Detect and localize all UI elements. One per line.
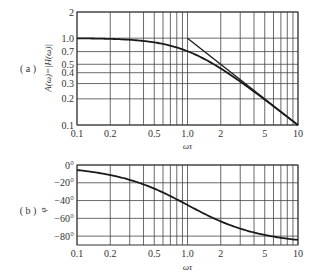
y-axis-label: A(ω)=|H(ω)| [43, 44, 53, 93]
x-tick-label: 1.0 [181, 248, 194, 259]
x-axis-label: ωτ [183, 141, 193, 151]
x-axis-label: ωτ [183, 262, 193, 272]
panel-label-b: ( b ) [20, 205, 37, 217]
x-tick-label: 0.1 [71, 248, 84, 259]
y-tick-label: −20° [54, 177, 74, 188]
phase-plot: 0°−20°−40°−60°−80°0.10.20.51.02510ωτφ( b… [20, 160, 303, 273]
x-tick-label: 1.0 [181, 128, 194, 139]
x-tick-label: 10 [293, 248, 303, 259]
x-tick-label: 5 [262, 128, 267, 139]
x-tick-label: 2 [218, 248, 223, 259]
x-tick-label: 2 [218, 128, 223, 139]
panel-label-a: ( a ) [20, 63, 36, 75]
x-tick-label: 0.5 [148, 248, 161, 259]
y-tick-label: 2 [69, 7, 74, 18]
y-tick-label: −40° [54, 195, 74, 206]
y-tick-label: −80° [54, 231, 74, 242]
x-tick-label: 0.1 [71, 128, 84, 139]
y-tick-label: −60° [54, 213, 74, 224]
asymptote-line [188, 38, 299, 125]
x-tick-label: 0.5 [148, 128, 161, 139]
x-tick-label: 5 [262, 248, 267, 259]
frequency-response-chart: 0.10.20.30.40.50.71.020.10.20.51.02510ωτ… [0, 0, 312, 280]
y-tick-label: 0.2 [62, 93, 75, 104]
y-tick-label: 0.3 [62, 78, 75, 89]
y-tick-label: 1.0 [62, 33, 75, 44]
y-tick-label: 0.7 [62, 46, 75, 57]
y-tick-label: 0° [65, 160, 74, 171]
amplitude-plot: 0.10.20.30.40.50.71.020.10.20.51.02510ωτ… [20, 7, 303, 152]
y-tick-label: 0.5 [62, 59, 75, 70]
x-tick-label: 0.2 [104, 248, 117, 259]
x-tick-label: 0.2 [104, 128, 117, 139]
x-tick-label: 10 [293, 128, 303, 139]
y-axis-label: φ [38, 207, 48, 212]
